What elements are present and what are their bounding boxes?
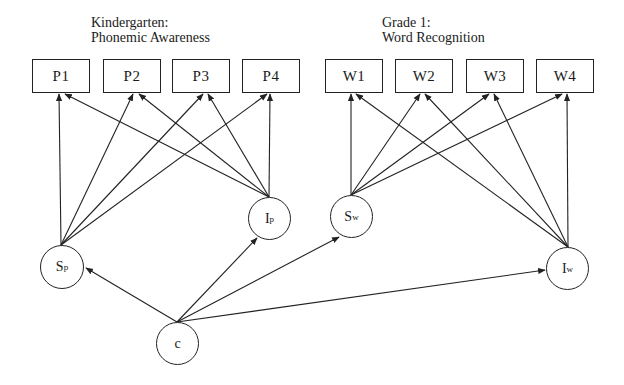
indicator-box-p2: P2 [103,59,161,93]
latent-node-c: c [156,322,199,365]
indicator-box-w2: W2 [395,59,453,93]
latent-c-base: c [174,336,180,352]
latent-node-sp: Sp [40,245,84,289]
latent-node-sw: Sw [330,195,373,238]
indicator-box-p1: P1 [32,59,90,93]
latent-sw-base: S [344,209,352,225]
path-edges [0,0,624,385]
kindergarten-title-line2: Phonemic Awareness [91,30,210,45]
latent-iw-sub: w [567,264,574,274]
latent-node-iw: Iw [546,247,589,290]
latent-ip-sub: p [270,214,275,224]
kindergarten-group-title: Kindergarten: Phonemic Awareness [91,15,210,45]
grade1-title-line1: Grade 1: [382,15,485,30]
indicator-box-w1: W1 [325,59,383,93]
kindergarten-title-line1: Kindergarten: [91,15,210,30]
indicator-box-w4: W4 [536,59,594,93]
latent-sp-sub: p [64,262,69,272]
latent-sw-sub: w [352,212,359,222]
latent-node-ip: Ip [248,197,291,240]
grade1-title-line2: Word Recognition [382,30,485,45]
latent-sp-base: S [56,259,64,275]
indicator-box-p4: P4 [242,59,300,93]
grade1-group-title: Grade 1: Word Recognition [382,15,485,45]
indicator-box-p3: P3 [172,59,230,93]
indicator-box-w3: W3 [466,59,524,93]
